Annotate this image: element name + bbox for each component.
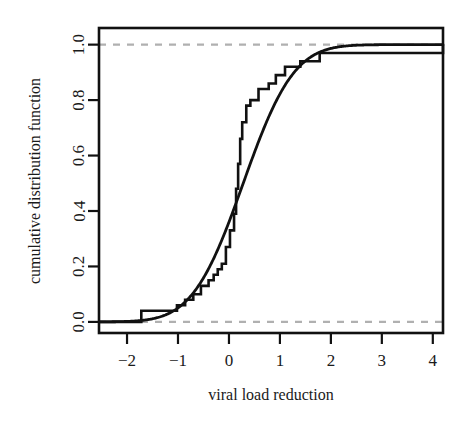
y-tick-label: 0.4	[70, 200, 89, 222]
x-tick-label: 2	[327, 351, 336, 370]
plot-canvas: −2−101234 0.00.20.40.60.81.0 viral load …	[0, 0, 469, 431]
y-axis-title: cumulative distribution function	[26, 78, 43, 284]
y-tick-label: 0.2	[70, 256, 89, 277]
y-tick-label: 0.6	[70, 145, 89, 166]
x-axis-title: viral load reduction	[208, 386, 333, 403]
x-tick-label: 0	[225, 351, 234, 370]
x-tick-label: −1	[169, 351, 187, 370]
y-tick-label: 0.8	[70, 89, 89, 110]
x-tick-label: −2	[118, 351, 136, 370]
x-tick-label: 4	[429, 351, 438, 370]
x-tick-label: 1	[276, 351, 285, 370]
y-tick-label: 1.0	[70, 34, 89, 55]
x-tick-label: 3	[378, 351, 387, 370]
y-tick-label: 0.0	[70, 311, 89, 332]
cdf-plot-figure: −2−101234 0.00.20.40.60.81.0 viral load …	[0, 0, 469, 431]
